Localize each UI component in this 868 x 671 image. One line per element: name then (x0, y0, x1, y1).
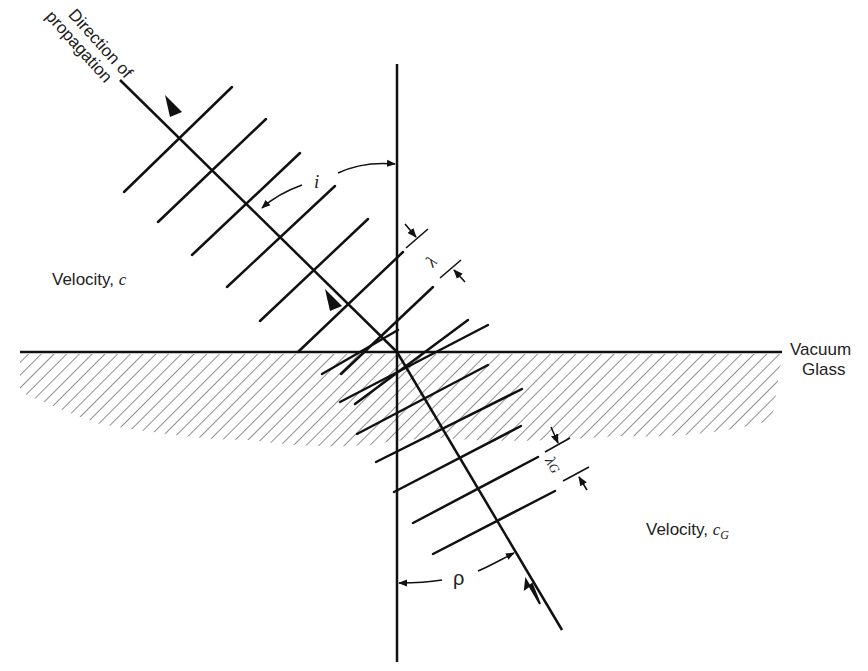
refracted-arrowhead (525, 580, 540, 604)
angle-i-arc (338, 163, 395, 173)
angle-rho-label: ρ (453, 567, 464, 590)
refraction-diagram (0, 0, 868, 671)
wavelength-vacuum-marker (405, 224, 465, 282)
velocity-vacuum-prefix: Velocity, (52, 270, 114, 289)
velocity-vacuum-label: Velocity, c (52, 270, 126, 290)
glass-region-hatch (20, 354, 782, 446)
vacuum-label: Vacuum (790, 340, 851, 360)
angle-rho-arc-left (399, 580, 442, 583)
incident-ray (120, 80, 397, 352)
velocity-glass-prefix: Velocity, (646, 520, 708, 539)
velocity-vacuum-symbol: c (119, 270, 127, 289)
angle-i-label: i (314, 171, 319, 193)
velocity-glass-subscript: G (720, 528, 729, 542)
angle-rho-arc-right (478, 553, 514, 571)
angle-i-arc-lower (262, 185, 302, 208)
incident-arrowhead-lower (325, 289, 342, 311)
velocity-glass-label: Velocity, cG (646, 520, 729, 543)
incident-arrowhead-upper (165, 95, 182, 117)
glass-label: Glass (802, 360, 845, 380)
